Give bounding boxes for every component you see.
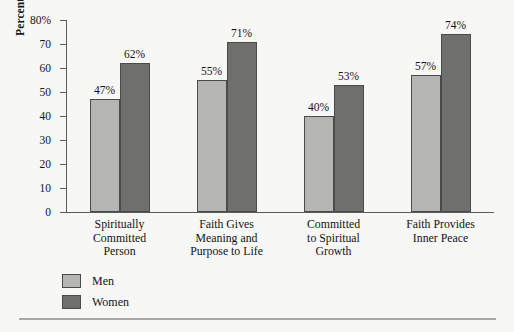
x-axis-category-line: Inner Peace <box>406 232 475 246</box>
y-axis-tick-label: 60 <box>40 62 52 74</box>
y-axis-tick: 50 <box>60 92 66 93</box>
x-axis-category-line: Spiritually <box>93 218 146 232</box>
y-axis-tick-label: 20 <box>40 158 52 170</box>
bar-value-label: 53% <box>338 70 359 82</box>
x-axis-category-line: Meaning and <box>190 232 263 246</box>
legend-item: Women <box>62 293 129 311</box>
y-axis-tick: 40 <box>60 116 66 117</box>
y-axis-line <box>66 20 67 213</box>
legend-label: Men <box>92 274 114 289</box>
plot-area: 01020304050607080%47%62%55%71%40%53%57%7… <box>66 20 494 212</box>
bar <box>227 42 257 212</box>
bar-value-label: 74% <box>445 19 466 31</box>
bar-value-label: 40% <box>308 101 329 113</box>
bar <box>120 63 150 212</box>
legend-swatch <box>62 274 81 288</box>
legend-item: Men <box>62 272 129 290</box>
y-axis-tick: 60 <box>60 68 66 69</box>
y-axis-tick: 30 <box>60 140 66 141</box>
bar-chart-figure: Percent Agreeing 01020304050607080%47%62… <box>0 0 514 332</box>
x-axis-category-line: Person <box>93 245 146 259</box>
x-axis-category-label: Faith ProvidesInner Peace <box>406 218 475 245</box>
y-axis-tick: 0 <box>60 212 66 213</box>
y-axis-tick: 70 <box>60 44 66 45</box>
chart-legend: MenWomen <box>62 272 129 314</box>
y-axis-tick-label: 50 <box>40 86 52 98</box>
x-axis-category-line: Committed <box>307 218 360 232</box>
x-axis-category-line: Purpose to Life <box>190 245 263 259</box>
x-axis-category-label: Committedto SpiritualGrowth <box>307 218 360 259</box>
bar <box>441 34 471 212</box>
bar-value-label: 71% <box>231 27 252 39</box>
y-axis-tick: 80% <box>60 20 66 21</box>
y-axis-title: Percent Agreeing <box>14 0 30 68</box>
x-axis-category-label: SpirituallyCommittedPerson <box>93 218 146 259</box>
bar-value-label: 55% <box>201 65 222 77</box>
bar-value-label: 47% <box>94 84 115 96</box>
x-axis-category-line: Growth <box>307 245 360 259</box>
y-axis-tick-label: 70 <box>40 38 52 50</box>
x-axis-category-line: Faith Provides <box>406 218 475 232</box>
y-axis-tick-label: 80% <box>30 14 51 26</box>
bar <box>90 99 120 212</box>
bar <box>197 80 227 212</box>
bar <box>304 116 334 212</box>
y-axis-tick: 20 <box>60 164 66 165</box>
y-axis-tick: 10 <box>60 188 66 189</box>
x-axis-category-line: to Spiritual <box>307 232 360 246</box>
bottom-divider <box>19 318 496 320</box>
bar-value-label: 62% <box>124 48 145 60</box>
bar <box>334 85 364 212</box>
legend-label: Women <box>92 295 129 310</box>
x-axis-category-line: Faith Gives <box>190 218 263 232</box>
x-axis-category-line: Committed <box>93 232 146 246</box>
x-axis-line <box>66 212 494 213</box>
y-axis-tick-label: 30 <box>40 134 52 146</box>
y-axis-tick-label: 40 <box>40 110 52 122</box>
x-axis-category-label: Faith GivesMeaning andPurpose to Life <box>190 218 263 259</box>
y-axis-tick-label: 10 <box>40 182 52 194</box>
legend-swatch <box>62 295 81 309</box>
y-axis-tick-label: 0 <box>45 206 51 218</box>
bar-value-label: 57% <box>415 60 436 72</box>
bar <box>411 75 441 212</box>
